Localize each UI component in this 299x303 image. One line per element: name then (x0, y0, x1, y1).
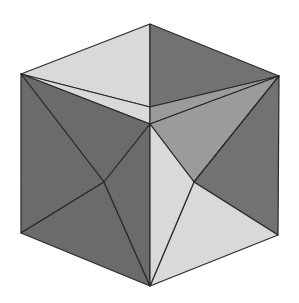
cube-facets (21, 24, 279, 286)
figure-canvas (0, 0, 299, 303)
dissected-cube-diagram (0, 0, 299, 303)
